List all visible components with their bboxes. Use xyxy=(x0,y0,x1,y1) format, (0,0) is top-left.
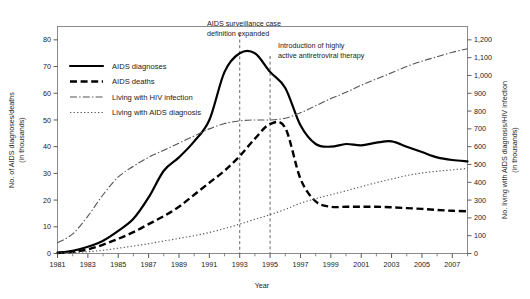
y-right-tick-label: 600 xyxy=(474,142,486,151)
y-left-tick-label: 40 xyxy=(43,142,51,151)
x-tick-label: 1991 xyxy=(201,260,217,269)
y-right-tick-label: 100 xyxy=(474,231,486,240)
y-right-tick-label: 700 xyxy=(474,124,486,133)
series-line-aids-deaths xyxy=(58,122,468,253)
legend-label: AIDS deaths xyxy=(112,77,155,86)
chart-legend: AIDS diagnosesAIDS deathsLiving with HIV… xyxy=(70,62,201,118)
chart-figure: 01020304050607080 0100200300400500600700… xyxy=(0,0,530,299)
legend-label: Living with HIV infection xyxy=(112,93,193,102)
x-tick-label: 1997 xyxy=(292,260,308,269)
x-tick-label: 1985 xyxy=(110,260,126,269)
y-right-tick-label: 0 xyxy=(474,249,478,258)
annotation-text-group: AIDS surveillance casedefinition expande… xyxy=(207,19,365,60)
x-tick-label: 2007 xyxy=(444,260,460,269)
x-tick-label: 1989 xyxy=(171,260,187,269)
y-left-tick-label: 80 xyxy=(43,35,51,44)
x-tick-label: 2003 xyxy=(384,260,400,269)
x-tick-label: 1993 xyxy=(232,260,248,269)
y-left-tick-label: 30 xyxy=(43,169,51,178)
series-line-living-with-aids-diagnosis xyxy=(58,168,468,253)
x-axis: 1981198319851987198919911993199519971999… xyxy=(50,254,468,270)
y-right-tick-label: 200 xyxy=(474,213,486,222)
legend-label: AIDS diagnoses xyxy=(112,62,167,71)
x-tick-label: 2001 xyxy=(353,260,369,269)
annotation-text-case-definition: AIDS surveillance case xyxy=(207,19,281,28)
y-axis-left-title: No. of AIDS diagnoses/deaths xyxy=(7,92,16,188)
y-axis-right-units: (in thousands) xyxy=(510,127,519,173)
annotation-text-case-definition: definition expanded xyxy=(207,29,269,38)
y-axis-left: 01020304050607080 xyxy=(43,35,58,258)
x-tick-label: 1995 xyxy=(262,260,278,269)
x-tick-label: 1981 xyxy=(50,260,66,269)
annotation-text-haart: active antiretroviral therapy xyxy=(278,51,365,60)
y-right-tick-label: 900 xyxy=(474,89,486,98)
y-right-tick-label: 400 xyxy=(474,178,486,187)
y-right-tick-label: 300 xyxy=(474,196,486,205)
y-axis-left-units: (in thousands) xyxy=(17,117,26,163)
y-right-tick-label: 800 xyxy=(474,107,486,116)
x-axis-title: Year xyxy=(255,281,270,290)
y-left-tick-label: 20 xyxy=(43,196,51,205)
x-tick-label: 1983 xyxy=(80,260,96,269)
y-left-tick-label: 10 xyxy=(43,222,51,231)
x-tick-label: 1999 xyxy=(323,260,339,269)
y-right-tick-label: 1,000 xyxy=(474,71,492,80)
legend-label: Living with AIDS diagnosis xyxy=(112,108,201,117)
y-left-tick-label: 70 xyxy=(43,62,51,71)
y-axis-right: 01002003004005006007008009001,0001,1001,… xyxy=(468,35,493,258)
y-right-tick-label: 500 xyxy=(474,160,486,169)
y-left-tick-label: 50 xyxy=(43,116,51,125)
y-left-tick-label: 60 xyxy=(43,89,51,98)
y-axis-right-title: No. living with AIDS diagnosis/HIV infec… xyxy=(500,81,509,219)
y-right-tick-label: 1,200 xyxy=(474,35,492,44)
y-left-tick-label: 0 xyxy=(47,249,51,258)
aids-surveillance-line-chart: 01020304050607080 0100200300400500600700… xyxy=(0,0,530,299)
annotation-text-haart: Introduction of highly xyxy=(278,41,345,50)
x-tick-label: 1987 xyxy=(141,260,157,269)
y-right-tick-label: 1,100 xyxy=(474,53,492,62)
x-tick-label: 2005 xyxy=(414,260,430,269)
